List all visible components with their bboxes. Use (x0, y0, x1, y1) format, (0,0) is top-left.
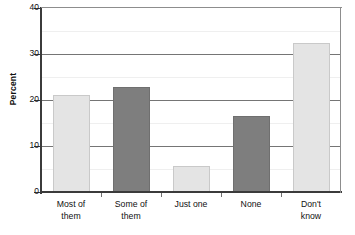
bar (113, 87, 150, 192)
x-axis-tick-label-line2: know (274, 211, 348, 223)
x-axis-tick-label-line1: Don't (301, 199, 321, 209)
x-axis-tick (281, 193, 282, 197)
bar (293, 43, 330, 192)
plot-area (41, 8, 341, 192)
x-axis-tick-label-line1: Some of (115, 199, 147, 209)
x-axis-tick-label-line1: None (241, 199, 262, 209)
gridline-minor (41, 31, 341, 32)
bar-chart-figure: Percent 403020100Most ofthemSome ofthemJ… (0, 0, 355, 235)
x-axis-tick-label-line2: them (94, 211, 168, 223)
bar (53, 95, 90, 192)
x-axis-tick (101, 193, 102, 197)
y-axis-tick-label: 0 (13, 187, 39, 196)
x-axis-tick (161, 193, 162, 197)
y-axis-tick-label: 20 (13, 95, 39, 104)
plot-frame-right (340, 7, 341, 193)
y-axis-tick-label: 40 (13, 3, 39, 12)
y-axis-tick-label: 10 (13, 141, 39, 150)
x-axis-tick-label: Don'tknow (274, 199, 348, 222)
x-axis-tick-label-line1: Most of (57, 199, 86, 209)
plot-frame-top (41, 7, 342, 8)
bar (233, 116, 270, 192)
bar (173, 166, 210, 192)
x-axis-spine (40, 191, 342, 193)
y-axis-tick-label: 30 (13, 49, 39, 58)
y-axis-title: Percent (8, 54, 18, 124)
x-axis-tick-label-line1: Just one (175, 199, 208, 209)
x-axis-tick (221, 193, 222, 197)
